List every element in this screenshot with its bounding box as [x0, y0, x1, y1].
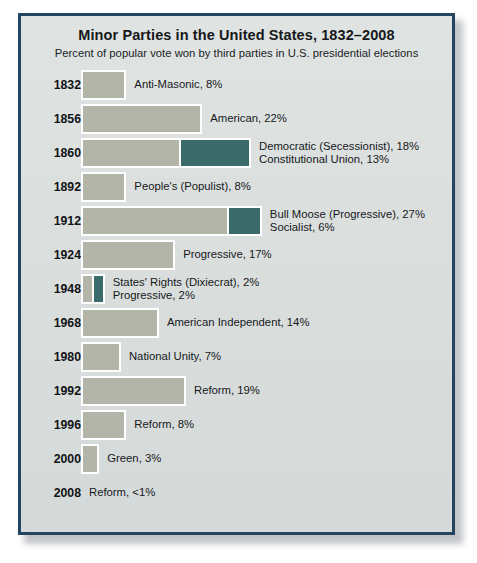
- bar-segment: [81, 70, 126, 100]
- row-bar-group: [81, 376, 184, 406]
- row-bar-group: [81, 342, 119, 372]
- chart-row: 1992Reform, 19%: [21, 374, 452, 408]
- bar-segment: [81, 342, 121, 372]
- bar-segment: [81, 410, 126, 440]
- value-label-line: Progressive, 2%: [113, 289, 260, 303]
- chart-row: 1996Reform, 8%: [21, 408, 452, 442]
- row-year-label: 1996: [21, 408, 81, 442]
- chart-row: 1912Bull Moose (Progressive), 27%Sociali…: [21, 204, 452, 238]
- row-year-label: 1856: [21, 102, 81, 136]
- value-label-line: Bull Moose (Progressive), 27%: [270, 208, 425, 222]
- row-year-label: 2000: [21, 442, 81, 476]
- chart-row: 1948States' Rights (Dixiecrat), 2%Progre…: [21, 272, 452, 306]
- value-label-line: Democratic (Secessionist), 18%: [259, 140, 419, 154]
- row-value-label: Bull Moose (Progressive), 27%Socialist, …: [262, 204, 425, 238]
- bar-segment: [81, 444, 99, 474]
- bar-segment: [179, 138, 251, 168]
- chart-rows: 1832Anti-Masonic, 8%1856American, 22%186…: [21, 68, 452, 510]
- value-label-line: People's (Populist), 8%: [134, 180, 250, 194]
- row-bar-group: [81, 308, 157, 338]
- chart-panel: Minor Parties in the United States, 1832…: [18, 13, 455, 535]
- chart-figure: Minor Parties in the United States, 1832…: [0, 0, 477, 563]
- row-year-label: 1892: [21, 170, 81, 204]
- bar-segment: [81, 376, 186, 406]
- bar-segment: [81, 172, 126, 202]
- row-value-label: Anti-Masonic, 8%: [126, 68, 222, 102]
- value-label-line: National Unity, 7%: [129, 350, 221, 364]
- chart-row: 1924Progressive, 17%: [21, 238, 452, 272]
- value-label-line: Reform, 19%: [194, 384, 260, 398]
- row-bar-group: [81, 104, 200, 134]
- row-value-label: States' Rights (Dixiecrat), 2%Progressiv…: [105, 272, 260, 306]
- row-year-label: 1968: [21, 306, 81, 340]
- chart-row: 1860Democratic (Secessionist), 18%Consti…: [21, 136, 452, 170]
- row-bar-group: [81, 240, 173, 270]
- chart-row: 1980National Unity, 7%: [21, 340, 452, 374]
- row-value-label: Reform, 8%: [126, 408, 194, 442]
- value-label-line: Socialist, 6%: [270, 221, 425, 235]
- value-label-line: Green, 3%: [107, 452, 161, 466]
- value-label-line: States' Rights (Dixiecrat), 2%: [113, 276, 260, 290]
- value-label-line: American, 22%: [210, 112, 287, 126]
- row-value-label: People's (Populist), 8%: [126, 170, 250, 204]
- chart-row: 2000Green, 3%: [21, 442, 452, 476]
- chart-row: 1832Anti-Masonic, 8%: [21, 68, 452, 102]
- value-label-line: Progressive, 17%: [183, 248, 272, 262]
- chart-row: 1856American, 22%: [21, 102, 452, 136]
- value-label-line: Reform, <1%: [89, 486, 155, 500]
- row-bar-group: [81, 206, 260, 236]
- row-year-label: 1912: [21, 204, 81, 238]
- row-value-label: Reform, 19%: [186, 374, 260, 408]
- bar-segment: [92, 274, 105, 304]
- row-year-label: 1992: [21, 374, 81, 408]
- row-bar-group: [81, 410, 124, 440]
- bar-segment: [81, 240, 175, 270]
- row-value-label: Democratic (Secessionist), 18%Constituti…: [251, 136, 419, 170]
- bar-segment: [81, 104, 202, 134]
- row-value-label: Progressive, 17%: [175, 238, 272, 272]
- row-value-label: National Unity, 7%: [121, 340, 221, 374]
- row-year-label: 2008: [21, 476, 81, 510]
- row-year-label: 1860: [21, 136, 81, 170]
- row-bar-group: [81, 274, 103, 304]
- row-value-label: American Independent, 14%: [159, 306, 310, 340]
- chart-subtitle: Percent of popular vote won by third par…: [21, 47, 452, 59]
- chart-row: 1968American Independent, 14%: [21, 306, 452, 340]
- bar-segment: [81, 206, 229, 236]
- row-value-label: American, 22%: [202, 102, 287, 136]
- value-label-line: Anti-Masonic, 8%: [134, 78, 222, 92]
- chart-row: 2008Reform, <1%: [21, 476, 452, 510]
- value-label-line: American Independent, 14%: [167, 316, 310, 330]
- row-bar-group: [81, 138, 249, 168]
- value-label-line: Constitutional Union, 13%: [259, 153, 419, 167]
- chart-row: 1892People's (Populist), 8%: [21, 170, 452, 204]
- row-year-label: 1832: [21, 68, 81, 102]
- row-bar-group: [81, 444, 97, 474]
- row-value-label: Green, 3%: [99, 442, 161, 476]
- row-year-label: 1980: [21, 340, 81, 374]
- row-bar-group: [81, 70, 124, 100]
- row-bar-group: [81, 172, 124, 202]
- row-value-label: Reform, <1%: [81, 476, 155, 510]
- row-year-label: 1924: [21, 238, 81, 272]
- value-label-line: Reform, 8%: [134, 418, 194, 432]
- bar-segment: [227, 206, 262, 236]
- row-year-label: 1948: [21, 272, 81, 306]
- bar-segment: [81, 138, 181, 168]
- bar-segment: [81, 308, 159, 338]
- chart-title: Minor Parties in the United States, 1832…: [21, 27, 452, 43]
